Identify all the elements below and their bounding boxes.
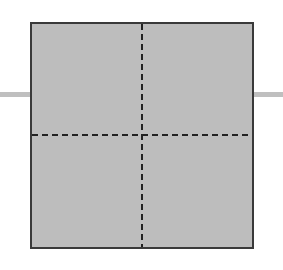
right-stub-bar bbox=[254, 92, 283, 97]
horizontal-dashed-divider bbox=[32, 134, 252, 136]
quadrant-square bbox=[30, 22, 254, 249]
left-stub-bar bbox=[0, 92, 30, 97]
